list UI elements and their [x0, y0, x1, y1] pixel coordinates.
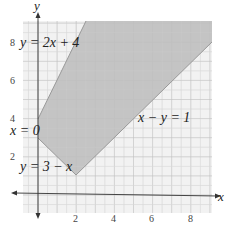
x-tick-6: 6: [149, 213, 154, 224]
y-axis-label: y: [32, 0, 40, 13]
label-x-minus-y-eq-1: x − y = 1: [137, 110, 190, 125]
x-tick-4: 4: [111, 213, 116, 224]
y-tick-6: 6: [10, 75, 15, 86]
label-x-eq-0: x = 0: [9, 123, 40, 138]
y-tick-2: 2: [10, 151, 15, 162]
label-y-eq-2x-plus-4: y = 2x + 4: [18, 35, 79, 50]
x-axis-label: x: [217, 189, 224, 204]
x-axis-arrow-left: [11, 191, 17, 196]
x-tick-2: 2: [73, 213, 78, 224]
inequality-graph: y x 2 4 6 8 8 6 4 2 y = 2x + 4 x − y = 1…: [0, 0, 226, 230]
label-y-eq-3-minus-x: y = 3 − x: [18, 159, 73, 174]
y-tick-8: 8: [10, 37, 15, 48]
x-tick-8: 8: [188, 213, 193, 224]
y-axis-arrow-down: [36, 213, 41, 219]
